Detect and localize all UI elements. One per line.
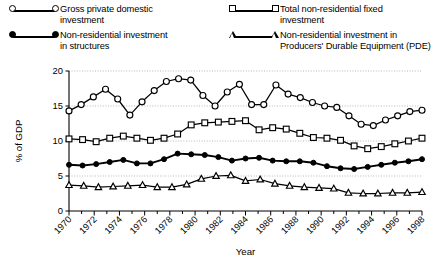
data-point: [273, 82, 279, 88]
data-point: [365, 146, 371, 152]
data-point: [297, 95, 303, 101]
data-point: [175, 131, 181, 137]
data-point: [216, 155, 221, 160]
data-point: [310, 135, 316, 141]
x-tick-label: 1976: [128, 214, 150, 236]
data-point: [67, 162, 72, 167]
data-point: [285, 91, 291, 97]
chart-figure: Gross private domestic investment Total …: [0, 0, 437, 259]
data-point: [202, 120, 208, 126]
data-point: [286, 182, 292, 188]
legend-label: Total non-residential fixed investment: [280, 4, 383, 25]
y-tick-label: 5: [58, 170, 63, 181]
x-tick-label: 1996: [380, 214, 402, 236]
x-tick-label: 1974: [103, 214, 125, 236]
data-point: [66, 136, 72, 142]
y-tick-label: 15: [53, 100, 63, 111]
x-axis-tick-labels: 1970197219741976197819801982198419861988…: [52, 214, 427, 236]
x-tick-label: 1986: [254, 214, 276, 236]
data-point: [66, 182, 72, 188]
data-point: [297, 130, 303, 136]
data-point: [224, 89, 230, 95]
data-point: [297, 159, 302, 164]
data-point: [127, 112, 133, 118]
data-point: [134, 135, 140, 141]
data-point: [80, 182, 86, 188]
data-point: [154, 184, 160, 190]
data-point: [243, 118, 249, 124]
data-point: [243, 156, 248, 161]
data-point: [334, 104, 340, 110]
x-tick-label: 1972: [77, 214, 99, 236]
x-tick-label: 1982: [203, 214, 225, 236]
data-point: [115, 96, 121, 102]
data-point: [331, 185, 337, 191]
legend-label: Non-residential investment in Producers'…: [280, 30, 431, 51]
y-tick-label: 10: [53, 135, 63, 146]
data-point: [370, 123, 376, 129]
x-axis-title: Year: [236, 246, 256, 257]
legend-label: Non-residential investment in structures: [60, 30, 167, 51]
chart-legend: Gross private domestic investment Total …: [0, 0, 437, 62]
data-point: [324, 135, 330, 141]
data-point: [162, 157, 167, 162]
x-tick-label: 1984: [229, 214, 251, 236]
y-tick-label: 20: [53, 65, 63, 76]
data-point: [139, 99, 145, 105]
data-point: [256, 127, 262, 133]
data-point: [90, 94, 96, 100]
data-point: [202, 153, 207, 158]
data-point: [309, 100, 315, 106]
data-point: [324, 164, 329, 169]
data-series-group: [66, 76, 425, 196]
data-point: [213, 173, 219, 179]
data-point: [95, 184, 101, 190]
data-point: [229, 119, 235, 125]
data-point: [257, 155, 262, 160]
data-point: [419, 107, 425, 113]
data-point: [163, 79, 169, 85]
y-axis-tick-labels: 05101520: [53, 65, 63, 216]
square-open-marker-icon: [228, 5, 280, 16]
data-point: [406, 138, 412, 144]
x-tick-label: 1978: [153, 214, 175, 236]
data-point: [215, 119, 221, 125]
series-2: [67, 151, 425, 171]
data-point: [392, 141, 398, 147]
data-point: [236, 81, 242, 87]
data-point: [257, 176, 263, 182]
data-point: [389, 189, 395, 195]
data-point: [107, 160, 112, 165]
data-point: [80, 137, 86, 143]
data-point: [392, 160, 397, 165]
legend-label: Gross private domestic investment: [60, 4, 153, 25]
legend-item-gross-private-domestic-investment: Gross private domestic investment: [8, 4, 223, 25]
data-point: [107, 135, 113, 141]
data-point: [249, 102, 255, 108]
data-point: [148, 161, 153, 166]
y-axis-title: % of GDP: [13, 120, 24, 163]
data-point: [188, 77, 194, 83]
triangle-open-marker-icon: [228, 31, 280, 42]
data-point: [270, 158, 275, 163]
chart-canvas: 05101520 1970197219741976197819801982198…: [0, 60, 437, 259]
data-point: [358, 121, 364, 127]
chart-plot-area: 05101520 1970197219741976197819801982198…: [0, 60, 437, 259]
data-point: [351, 143, 357, 149]
data-point: [242, 178, 248, 184]
data-point: [345, 189, 351, 195]
data-point: [338, 166, 343, 171]
data-point: [103, 86, 109, 92]
data-point: [161, 135, 167, 141]
data-point: [93, 139, 99, 145]
data-point: [406, 159, 411, 164]
data-point: [395, 113, 401, 119]
data-point: [311, 160, 316, 165]
legend-item-total-nonresidential-fixed-investment: Total non-residential fixed investment: [228, 4, 433, 25]
data-point: [200, 93, 206, 99]
x-tick-label: 1970: [52, 214, 74, 236]
data-point: [301, 184, 307, 190]
data-point: [175, 151, 180, 156]
data-point: [229, 158, 234, 163]
data-point: [78, 102, 84, 108]
